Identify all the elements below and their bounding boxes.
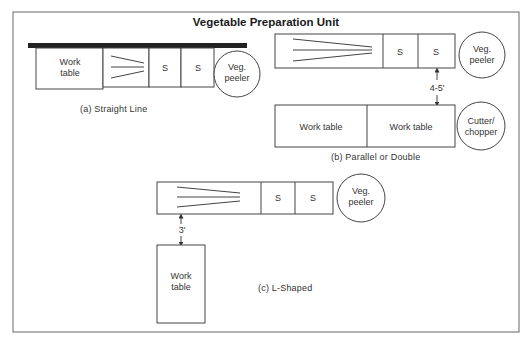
work-table-1-label: Work table bbox=[300, 122, 343, 132]
work-table-label-2: table bbox=[171, 282, 191, 292]
layout-straight-line: Work table S S Veg. peeler (a) Straight … bbox=[28, 43, 260, 114]
work-table-2-label: Work table bbox=[390, 122, 433, 132]
diagram-title: Vegetable Preparation Unit bbox=[193, 16, 340, 28]
sink-2-label: S bbox=[195, 63, 201, 73]
veg-peeler-label-2: peeler bbox=[224, 73, 249, 83]
cutter-label-1: Cutter/ bbox=[467, 116, 495, 126]
work-table-label-1: Work bbox=[171, 271, 192, 281]
sink-2-label: S bbox=[433, 47, 439, 57]
sink-1-label: S bbox=[162, 63, 168, 73]
layout-l-shaped: S S Veg. peeler 3' Work table (c) L-Shap… bbox=[157, 174, 385, 323]
caption-c: (c) L-Shaped bbox=[258, 283, 312, 293]
veg-peeler-label-1: Veg. bbox=[473, 44, 491, 54]
counter-wall-bar bbox=[28, 43, 247, 48]
distance-label: 4-5' bbox=[430, 83, 445, 93]
cutter-chopper bbox=[457, 102, 505, 150]
work-table-label-2: table bbox=[60, 68, 80, 78]
counter bbox=[157, 182, 333, 214]
top-counter bbox=[275, 34, 455, 68]
sink-1-label: S bbox=[275, 193, 281, 203]
work-table-label-1: Work bbox=[60, 57, 81, 67]
vegetable-prep-diagram: Vegetable Preparation Unit Work table S … bbox=[0, 0, 532, 344]
veg-peeler-label-2: peeler bbox=[348, 197, 373, 207]
caption-a: (a) Straight Line bbox=[80, 104, 147, 114]
sink-1-label: S bbox=[397, 47, 403, 57]
distance-label: 3' bbox=[179, 225, 186, 235]
layout-parallel: S S Veg. peeler 4-5' Work table Work tab… bbox=[275, 32, 505, 162]
veg-peeler-label-1: Veg. bbox=[228, 62, 246, 72]
veg-peeler-label-1: Veg. bbox=[352, 186, 370, 196]
caption-b: (b) Parallel or Double bbox=[331, 152, 420, 162]
cutter-label-2: chopper bbox=[465, 127, 498, 137]
sink-2-label: S bbox=[310, 193, 316, 203]
veg-peeler-label-2: peeler bbox=[469, 55, 494, 65]
